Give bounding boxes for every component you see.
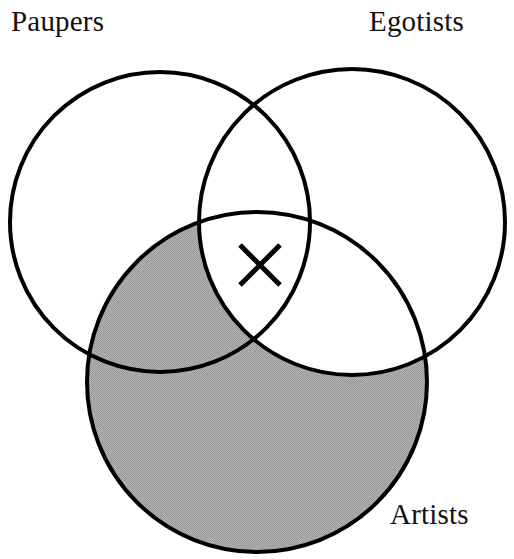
venn-diagram-figure: Paupers Egotists Artists — [0, 0, 514, 559]
set-label-paupers: Paupers — [11, 7, 104, 36]
set-label-artists: Artists — [390, 500, 469, 529]
venn-diagram-canvas — [0, 0, 514, 559]
set-label-egotists: Egotists — [369, 7, 464, 36]
